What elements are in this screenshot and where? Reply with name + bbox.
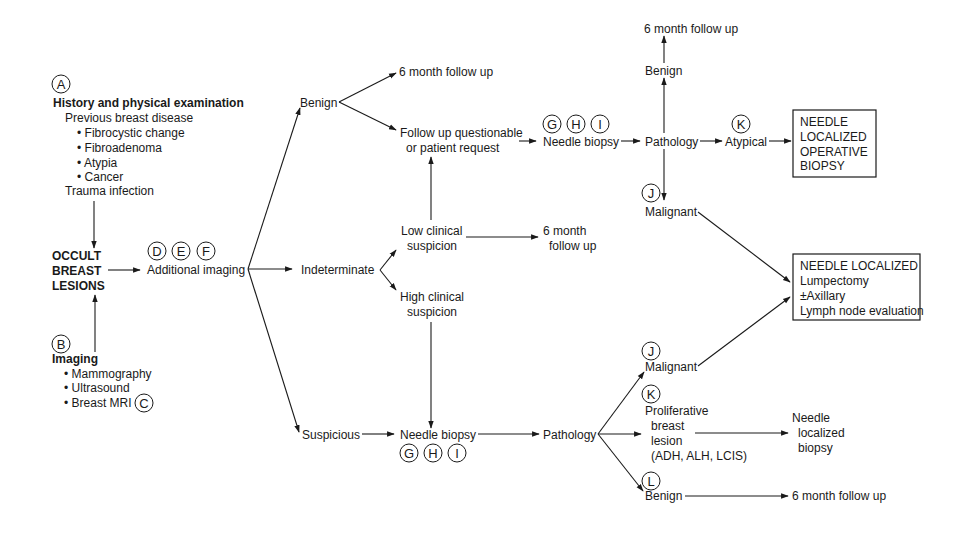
proliferative-line-0: Proliferative: [645, 404, 709, 418]
occult-line-0: OCCULT: [52, 249, 102, 263]
marker-g-top-label: G: [547, 117, 557, 132]
needle-biopsy-top-node: G H I Needle biopsy: [543, 115, 619, 149]
lumpectomy-box: NEEDLE LOCALIZED Lumpectomy ±Axillary Ly…: [793, 254, 924, 320]
benign-bottom-label: Benign: [645, 489, 682, 503]
needle-biopsy-bottom-label: Needle biopsy: [400, 428, 476, 442]
low-suspicion-line-0: Low clinical: [401, 224, 462, 238]
arrow-indeterminate-to-low: [380, 250, 396, 270]
marker-i-bottom-label: I: [455, 446, 459, 461]
benign-top-label: Benign: [300, 96, 337, 110]
malignant-bottom-label: Malignant: [645, 360, 698, 374]
lumpectomy-line-0: NEEDLE LOCALIZED: [800, 259, 918, 273]
marker-c-label: C: [139, 396, 148, 411]
additional-imaging-label: Additional imaging: [147, 263, 245, 277]
operative-line-1: LOCALIZED: [800, 130, 867, 144]
history-item-3: • Cancer: [77, 170, 123, 184]
history-extra: Trauma infection: [65, 184, 154, 198]
needle-localized-line-1: localized: [798, 426, 845, 440]
followup-top-label: 6 month follow up: [399, 65, 493, 79]
followup-upper-label: 6 month follow up: [644, 22, 738, 36]
history-item-0: • Fibrocystic change: [77, 126, 185, 140]
operative-line-2: OPERATIVE: [800, 145, 868, 159]
marker-k-bottom-label: K: [647, 387, 656, 402]
proliferative-line-3: (ADH, ALH, LCIS): [651, 449, 747, 463]
occult-node: OCCULT BREAST LESIONS: [52, 249, 105, 293]
marker-h-top-label: H: [571, 117, 580, 132]
atypical-label: Atypical: [725, 135, 767, 149]
operative-line-3: BIOPSY: [800, 159, 845, 173]
lumpectomy-line-1: Lumpectomy: [800, 274, 869, 288]
benign-upper-label: Benign: [645, 64, 682, 78]
marker-e-label: E: [177, 244, 186, 259]
operative-biopsy-box: NEEDLE LOCALIZED OPERATIVE BIOPSY: [793, 110, 876, 177]
flowchart-canvas: A History and physical examination Previ…: [0, 0, 974, 534]
marker-g-bottom-label: G: [404, 446, 414, 461]
occult-line-1: BREAST: [52, 264, 102, 278]
malignant-top-label: Malignant: [645, 205, 698, 219]
low-suspicion-line-1: suspicion: [407, 239, 457, 253]
arrow-benign-to-questionable: [339, 102, 396, 130]
arrow-indeterminate-to-high: [380, 270, 396, 290]
proliferative-line-1: breast: [651, 419, 685, 433]
marker-f-label: F: [202, 244, 210, 259]
arrow-malignant-top-to-lumpectomy: [698, 212, 790, 282]
arrow-additional-to-benign: [248, 108, 300, 269]
marker-k-top-label: K: [737, 117, 746, 132]
high-suspicion-line-0: High clinical: [400, 290, 464, 304]
questionable-line-1: or patient request: [406, 141, 500, 155]
marker-j-top-label: J: [648, 186, 655, 201]
followup-mid-line-1: follow up: [549, 239, 597, 253]
arrow-malignant-bottom-to-lumpectomy: [698, 297, 790, 366]
indeterminate-label: Indeterminate: [301, 263, 375, 277]
marker-h-bottom-label: H: [428, 446, 437, 461]
suspicious-label: Suspicious: [302, 428, 360, 442]
history-node: A History and physical examination Previ…: [52, 75, 244, 198]
pathology-top-label: Pathology: [645, 135, 698, 149]
needle-biopsy-top-label: Needle biopsy: [543, 135, 619, 149]
marker-l-label: L: [647, 474, 654, 489]
history-item-2: • Atypia: [77, 156, 118, 170]
arrow-pathology-to-benign-bottom: [598, 434, 643, 491]
high-suspicion-line-1: suspicion: [407, 305, 457, 319]
followup-mid-line-0: 6 month: [543, 224, 586, 238]
followup-bottom-label: 6 month follow up: [792, 489, 886, 503]
imaging-item-0: • Mammography: [64, 367, 152, 381]
occult-line-2: LESIONS: [52, 279, 105, 293]
imaging-node: B Imaging • Mammography • Ultrasound • B…: [52, 335, 153, 412]
arrow-pathology-to-malignant-bottom: [598, 372, 644, 434]
needle-localized-line-0: Needle: [792, 411, 830, 425]
marker-a-label: A: [57, 77, 66, 92]
history-item-1: • Fibroadenoma: [77, 141, 162, 155]
imaging-item-2: • Breast MRI: [64, 396, 132, 410]
marker-b-label: B: [57, 337, 66, 352]
proliferative-line-2: lesion: [651, 434, 682, 448]
lumpectomy-line-3: Lymph node evaluation: [800, 304, 924, 318]
questionable-line-0: Follow up questionable: [400, 126, 523, 140]
history-subtitle: Previous breast disease: [65, 111, 193, 125]
history-title: History and physical examination: [53, 96, 244, 110]
needle-biopsy-bottom-node: Needle biopsy G H I: [400, 428, 476, 462]
imaging-title: Imaging: [52, 352, 98, 366]
arrow-benign-to-followup: [339, 73, 396, 102]
needle-localized-line-2: biopsy: [798, 441, 833, 455]
pathology-bottom-label: Pathology: [543, 428, 596, 442]
operative-line-0: NEEDLE: [800, 115, 848, 129]
arrow-additional-to-suspicious: [248, 269, 299, 432]
additional-imaging-node: D E F Additional imaging: [147, 242, 245, 277]
imaging-item-1: • Ultrasound: [64, 381, 130, 395]
marker-j-bottom-label: J: [648, 344, 655, 359]
lumpectomy-line-2: ±Axillary: [800, 289, 845, 303]
marker-i-top-label: I: [598, 117, 602, 132]
marker-d-label: D: [152, 244, 161, 259]
